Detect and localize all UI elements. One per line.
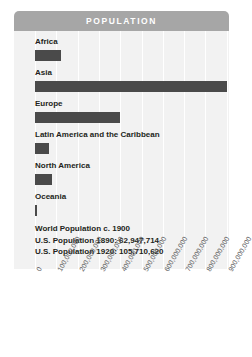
bar-group: Europe	[14, 99, 229, 130]
bar-group: Africa	[14, 37, 229, 68]
bar-category-label: North America	[35, 161, 90, 170]
bar	[35, 112, 120, 123]
page-title: POPULATION	[86, 16, 157, 26]
bar	[35, 205, 37, 216]
bar-category-label: Latin America and the Caribbean	[35, 130, 160, 139]
bar-category-label: Europe	[35, 99, 63, 108]
population-chart-card: POPULATION AfricaAsiaEuropeLatin America…	[14, 11, 229, 269]
annotation-line: U.S. Population 1920: 105,710,620	[35, 246, 164, 258]
bar-category-label: Asia	[35, 68, 52, 77]
annotation-line: World Population c. 1900	[35, 223, 164, 235]
chart-header: POPULATION	[14, 11, 229, 31]
bar-group: Asia	[14, 68, 229, 99]
bar	[35, 81, 227, 92]
bar	[35, 174, 52, 185]
bar-group: Oceania	[14, 192, 229, 223]
bar-group: Latin America and the Caribbean	[14, 130, 229, 161]
bar	[35, 50, 61, 61]
bar-category-label: Africa	[35, 37, 58, 46]
bar	[35, 143, 49, 154]
x-axis-tick-labels: 0100,000,000200,000,000300,000,000400,00…	[14, 269, 229, 357]
bar-category-label: Oceania	[35, 192, 66, 201]
plot-area: AfricaAsiaEuropeLatin America and the Ca…	[14, 31, 229, 269]
bar-group: North America	[14, 161, 229, 192]
